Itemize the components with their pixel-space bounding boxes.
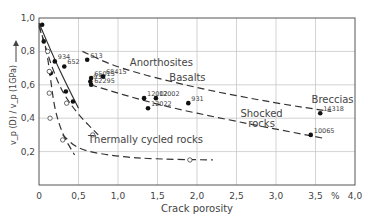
data-point-filled <box>41 39 46 44</box>
point-label: 14318 <box>323 105 344 113</box>
data-point-filled <box>40 22 45 27</box>
point-label: 652 <box>67 58 79 66</box>
data-point-filled <box>146 106 151 111</box>
x-tick-label: 4,0 <box>348 191 363 201</box>
chart-canvas: 00,51,01,52,02,53,03,54,0%0,20,40,60,81,… <box>0 0 372 219</box>
curve-anorthosites <box>82 51 331 111</box>
data-point-filled <box>308 133 313 138</box>
point-label: 12002 <box>159 90 180 98</box>
data-point-open <box>47 91 51 95</box>
data-point-filled <box>85 57 90 62</box>
point-label: 12022 <box>151 100 172 108</box>
x-tick-label: 3,5 <box>308 191 322 201</box>
data-point-filled <box>186 101 191 106</box>
data-point-filled <box>318 111 323 116</box>
x-unit-label: % <box>331 191 340 201</box>
data-point-open <box>64 101 68 105</box>
annotation-label: Anorthosites <box>130 57 193 68</box>
x-tick-label: 2,5 <box>229 191 243 201</box>
data-point-filled <box>62 64 67 69</box>
x-tick-label: 2,0 <box>190 191 205 201</box>
x-tick-label: 1,5 <box>150 191 164 201</box>
x-tick-label: 0,5 <box>71 191 85 201</box>
x-axis-label: Crack porosity <box>161 203 233 214</box>
annotation-label: Breccias <box>312 94 354 105</box>
point-label: 931 <box>191 95 203 103</box>
data-point-open <box>48 116 52 120</box>
data-point-open <box>45 49 49 53</box>
x-tick-label: 1,0 <box>111 191 126 201</box>
arrow-head-icon <box>13 40 19 46</box>
crack-porosity-chart: 00,51,01,52,02,53,03,54,0%0,20,40,60,81,… <box>0 0 372 219</box>
data-point-filled <box>71 99 76 104</box>
data-point-open <box>47 69 51 73</box>
annotation-label: rocks <box>248 118 275 129</box>
curve-basalts-shocked <box>90 85 323 138</box>
y-axis-label: v_p (D) / v_p (1GPa) <box>9 65 18 145</box>
y-tick-label: 1,0 <box>21 13 36 23</box>
point-label: 10065 <box>314 127 335 135</box>
data-point-filled <box>53 59 58 64</box>
data-point-filled <box>101 74 106 79</box>
annotation-label: Thermally cycled rocks <box>87 134 203 145</box>
y-tick-label: 0,2 <box>21 147 35 157</box>
point-label: 68415 <box>106 68 127 76</box>
y-tick-label: 0,4 <box>21 113 36 123</box>
data-point-open <box>188 158 192 162</box>
point-label: 613 <box>90 52 102 60</box>
x-tick-label: 3,0 <box>269 191 284 201</box>
axes: 00,51,01,52,02,53,03,54,0%0,20,40,60,81,… <box>13 13 362 201</box>
y-tick-label: 0,6 <box>21 80 36 90</box>
data-point-open <box>61 138 65 142</box>
data-point-filled <box>142 96 147 101</box>
data-point-filled <box>64 89 69 94</box>
annotation-label: Basalts <box>169 72 205 83</box>
data-point-filled <box>89 83 94 88</box>
x-tick-label: 0 <box>36 191 42 201</box>
y-tick-label: 0,8 <box>21 46 36 56</box>
